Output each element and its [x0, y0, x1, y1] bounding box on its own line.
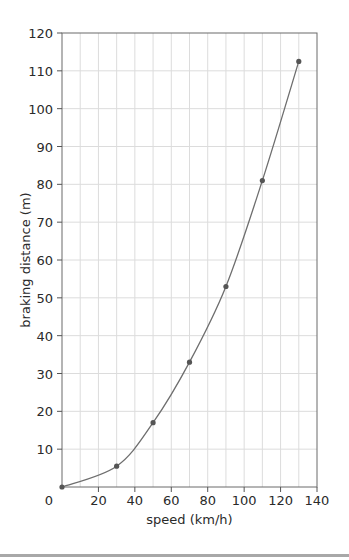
x-axis-ticks: 020406080100120140 — [45, 487, 330, 508]
y-tick-label: 120 — [28, 26, 53, 41]
data-point — [260, 178, 265, 183]
data-point — [187, 360, 192, 365]
braking-distance-chart: 102030405060708090100110120 020406080100… — [0, 0, 349, 560]
x-tick-label: 60 — [163, 493, 180, 508]
y-tick-label: 90 — [36, 140, 53, 155]
bottom-divider — [0, 554, 349, 557]
x-axis-label: speed (km/h) — [146, 512, 232, 527]
data-point — [223, 284, 228, 289]
x-tick-label: 0 — [45, 493, 53, 508]
y-tick-label: 30 — [36, 367, 53, 382]
y-tick-label: 50 — [36, 291, 53, 306]
x-tick-label: 20 — [90, 493, 107, 508]
y-tick-label: 10 — [36, 442, 53, 457]
y-tick-label: 70 — [36, 215, 53, 230]
data-point — [114, 464, 119, 469]
x-tick-label: 100 — [232, 493, 257, 508]
data-markers — [59, 59, 301, 490]
y-tick-label: 60 — [36, 253, 53, 268]
y-tick-label: 100 — [28, 102, 53, 117]
x-tick-label: 140 — [305, 493, 330, 508]
y-tick-label: 80 — [36, 177, 53, 192]
data-point — [150, 420, 155, 425]
y-tick-label: 20 — [36, 404, 53, 419]
data-line — [62, 61, 299, 487]
data-point — [296, 59, 301, 64]
y-tick-label: 110 — [28, 64, 53, 79]
data-point — [59, 484, 64, 489]
x-tick-label: 120 — [268, 493, 293, 508]
y-axis-ticks: 102030405060708090100110120 — [28, 26, 62, 457]
grid-lines — [62, 33, 317, 487]
y-axis-label: braking distance (m) — [18, 192, 33, 327]
x-tick-label: 80 — [199, 493, 216, 508]
x-tick-label: 40 — [127, 493, 144, 508]
y-tick-label: 40 — [36, 329, 53, 344]
